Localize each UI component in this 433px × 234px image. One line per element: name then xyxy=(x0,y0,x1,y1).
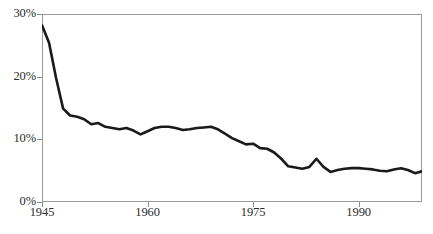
chart-figure: 30%20%10%0% 1945196019751990 xyxy=(0,0,433,234)
x-axis: 1945196019751990 xyxy=(0,0,433,234)
x-tick-mark xyxy=(42,202,43,207)
x-tick-mark xyxy=(253,202,254,207)
x-tick-label: 1960 xyxy=(118,206,178,219)
x-tick-label: 1990 xyxy=(329,206,389,219)
x-tick-label: 1975 xyxy=(223,206,283,219)
x-tick-label: 1945 xyxy=(12,206,72,219)
x-tick-mark xyxy=(148,202,149,207)
caption-fragment xyxy=(26,224,226,232)
x-tick-mark xyxy=(359,202,360,207)
